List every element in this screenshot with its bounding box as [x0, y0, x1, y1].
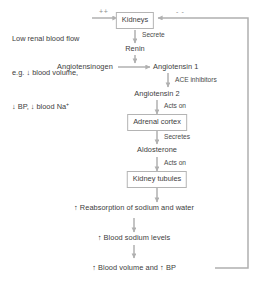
node-blood-volume-and-bp: ↑ Blood volume and ↑ BP — [92, 263, 176, 273]
node-kidney-tubules[interactable]: Kidney tubules — [127, 171, 187, 188]
node-blood-sodium-levels: ↑ Blood sodium levels — [98, 233, 171, 243]
node-angiotensinogen: Angiotensinogen — [57, 62, 113, 72]
node-renin: Renin — [125, 44, 145, 54]
node-angiotensin-2: Angiotensin 2 — [134, 89, 179, 99]
edge-label-secrete: Secrete — [142, 31, 165, 39]
stimulus-line-1: Low renal blood flow — [12, 33, 79, 44]
node-aldosterone: Aldosterone — [137, 145, 177, 155]
node-kidneys[interactable]: Kidneys — [116, 12, 154, 29]
node-reabsorption: ↑ Reabsorption of sodium and water — [74, 203, 194, 213]
arrow-negative-feedback-loop — [158, 18, 248, 268]
raas-flowchart: Low renal blood flow e.g. ↓ blood volume… — [0, 0, 263, 282]
stimulus-line-3: ↓ BP, ↓ blood Na+ — [12, 101, 79, 112]
edge-label-acts-on-tubules: Acts on — [164, 159, 186, 167]
edge-label-secretes: Secretes — [164, 133, 190, 141]
inhibitory-sign: - - — [176, 8, 184, 15]
stimulus-text-block: Low renal blood flow e.g. ↓ blood volume… — [12, 10, 79, 135]
edge-label-acts-on-adrenal: Acts on — [164, 102, 186, 110]
stimulatory-sign: ++ — [99, 8, 108, 15]
node-angiotensin-1: Angiotensin 1 — [153, 62, 198, 72]
node-adrenal-cortex[interactable]: Adrenal cortex — [127, 114, 187, 131]
edge-label-ace-inhibitors: ACE inhibitors — [175, 76, 217, 84]
